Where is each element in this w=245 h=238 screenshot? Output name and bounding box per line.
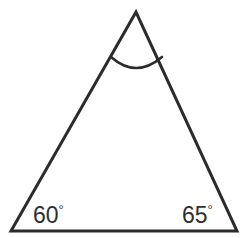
angle-label-bottom-right: 65° <box>182 203 213 227</box>
degree-symbol-bottom-right: ° <box>208 202 213 217</box>
degree-symbol-bottom-left: ° <box>59 202 64 217</box>
angle-value-bottom-right: 65 <box>182 202 208 228</box>
apex-angle-arc-icon <box>111 57 162 68</box>
angle-label-bottom-left: 60° <box>33 203 64 227</box>
triangle-outline <box>11 12 237 231</box>
angle-value-bottom-left: 60 <box>33 202 59 228</box>
triangle-figure: 60° 65° <box>0 0 245 238</box>
